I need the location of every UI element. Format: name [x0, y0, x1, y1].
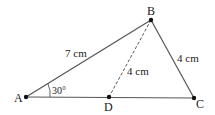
- label-d: D: [104, 100, 113, 114]
- triangle-diagram: A B C D 7 cm 4 cm 4 cm 30°: [0, 0, 215, 115]
- segment-bd-dashed: [109, 20, 151, 97]
- segment-ab: [26, 20, 151, 97]
- label-a: A: [14, 91, 23, 105]
- label-ab-length: 7 cm: [65, 47, 87, 59]
- label-angle-a: 30°: [52, 85, 66, 96]
- point-b: [149, 18, 153, 22]
- point-d: [107, 95, 111, 99]
- point-a: [24, 95, 28, 99]
- label-c: C: [196, 97, 204, 111]
- label-b: B: [147, 4, 155, 18]
- angle-arc-a: [48, 84, 50, 97]
- label-bd-length: 4 cm: [127, 65, 149, 77]
- label-bc-length: 4 cm: [177, 52, 199, 64]
